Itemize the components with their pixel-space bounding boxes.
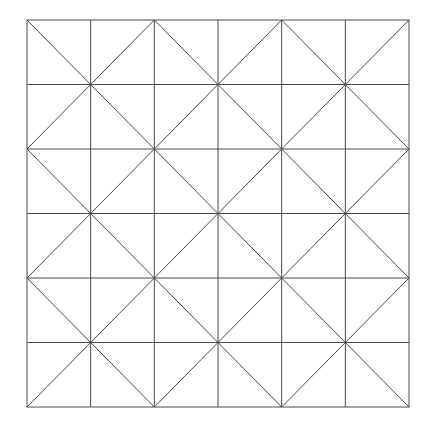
grid-diagram xyxy=(0,0,431,429)
diagram-canvas xyxy=(0,0,431,429)
